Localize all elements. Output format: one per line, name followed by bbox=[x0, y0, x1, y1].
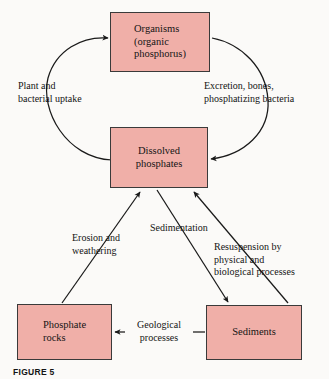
node-phosphate-rocks: Phosphate rocks bbox=[17, 304, 112, 360]
node-phosphate-rocks-label: Phosphate rocks bbox=[39, 319, 90, 345]
node-dissolved-phosphates: Dissolved phosphates bbox=[110, 127, 208, 188]
node-organisms: Organisms (organic phosphorus) bbox=[110, 12, 210, 72]
node-sediments-label: Sediments bbox=[228, 326, 280, 339]
edge-label-sedimentation: Sedimentation bbox=[150, 222, 208, 235]
edge-label-excretion: Excretion, bones, phosphatizing bacteria bbox=[204, 80, 294, 105]
node-organisms-label: Organisms (organic phosphorus) bbox=[130, 23, 190, 61]
node-sediments: Sediments bbox=[206, 305, 302, 360]
node-dissolved-phosphates-label: Dissolved phosphates bbox=[132, 145, 187, 171]
edge-label-resuspension: Resuspension by physical and biological … bbox=[214, 241, 295, 279]
edge-label-plant-uptake: Plant and bacterial uptake bbox=[18, 80, 82, 105]
phosphorus-cycle-diagram: Organisms (organic phosphorus) Dissolved… bbox=[0, 0, 329, 379]
edge-label-erosion: Erosion and weathering bbox=[72, 232, 120, 257]
edge-label-geological-processes: Geological processes bbox=[125, 319, 193, 344]
figure-caption: FIGURE 5 bbox=[13, 367, 55, 377]
